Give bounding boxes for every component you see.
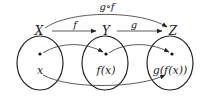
element-x-label: x	[37, 64, 44, 77]
set-y-ellipse	[82, 36, 128, 90]
set-y-label: Y	[102, 24, 111, 38]
point-gfx	[170, 52, 173, 55]
arrow-fx-to-gfx	[109, 45, 169, 53]
set-x-label: X	[34, 24, 44, 38]
point-x	[38, 52, 41, 55]
element-gfx-label: g(f(x))	[153, 64, 187, 77]
arrow-g-label: g	[131, 19, 137, 30]
element-fx-label: f(x)	[96, 64, 116, 77]
arrow-gf-label: g∘f	[99, 1, 116, 12]
point-fx	[104, 52, 107, 55]
arrow-x-to-fx	[43, 45, 103, 53]
arrow-f-label: f	[72, 19, 79, 30]
set-z-label: Z	[168, 24, 178, 38]
composition-diagram: X Y Z f g g∘f x f(x) g(f(x))	[0, 0, 205, 102]
set-x-ellipse	[17, 36, 63, 90]
set-z-ellipse	[147, 36, 193, 90]
